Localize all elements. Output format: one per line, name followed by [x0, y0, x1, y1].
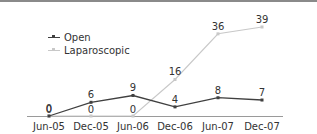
data-point	[174, 78, 177, 81]
legend-item-open: Open	[48, 31, 130, 44]
data-label-open: 8	[215, 85, 221, 96]
data-point	[261, 26, 264, 29]
data-label-laparoscopic: 39	[256, 14, 269, 25]
data-label-laparoscopic: 0	[130, 104, 136, 115]
data-point	[132, 94, 135, 97]
x-tick-label: Jun-07	[201, 121, 234, 132]
x-tick-label: Dec-05	[73, 121, 109, 132]
legend-label: Laparoscopic	[64, 44, 130, 57]
data-point	[261, 99, 264, 102]
data-label-laparoscopic: 0	[88, 104, 94, 115]
data-point	[217, 96, 220, 99]
data-point	[174, 105, 177, 108]
data-label-open: 6	[88, 89, 94, 100]
data-label-open: 4	[172, 94, 178, 105]
legend-marker-open-icon	[48, 34, 60, 41]
line-chart: Jun-05Dec-05Jun-06Dec-06Jun-07Dec-070694…	[0, 0, 317, 134]
legend-item-laparoscopic: Laparoscopic	[48, 44, 130, 57]
data-label-laparoscopic: 0	[46, 104, 52, 115]
data-label-open: 9	[130, 82, 136, 93]
x-tick-label: Jun-05	[32, 121, 65, 132]
data-label-open: 7	[259, 87, 265, 98]
legend: Open Laparoscopic	[48, 31, 130, 57]
data-label-laparoscopic: 16	[169, 66, 182, 77]
legend-label: Open	[64, 31, 91, 44]
data-label-laparoscopic: 36	[212, 21, 225, 32]
x-tick-label: Jun-06	[116, 121, 149, 132]
series-line-open	[49, 96, 262, 117]
legend-marker-laparoscopic-icon	[48, 47, 60, 54]
x-tick-label: Dec-06	[157, 121, 193, 132]
data-point	[217, 32, 220, 35]
x-tick-label: Dec-07	[244, 121, 280, 132]
